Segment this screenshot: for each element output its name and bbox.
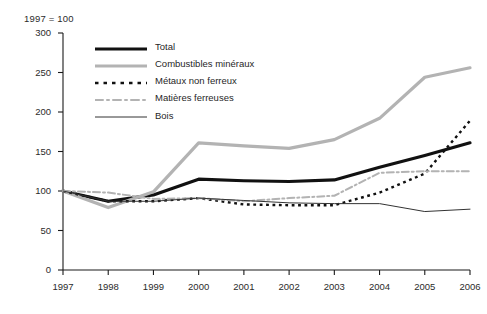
x-axis-tick-label: 2005: [403, 282, 447, 292]
x-axis-tick-label: 2002: [267, 282, 311, 292]
series-line-3: [63, 171, 470, 201]
legend-item[interactable]: Métaux non ferreux: [95, 74, 254, 87]
legend-swatch-icon: [95, 58, 147, 70]
legend-item[interactable]: Matières ferreuses: [95, 92, 254, 105]
legend-label: Combustibles minéraux: [155, 59, 254, 69]
legend-item[interactable]: Combustibles minéraux: [95, 57, 254, 70]
legend-label: Total: [155, 42, 175, 52]
y-axis-tick-label: 0: [17, 265, 51, 275]
x-axis-tick-label: 1999: [131, 282, 175, 292]
legend-swatch-icon: [95, 41, 147, 53]
x-axis-tick-label: 2006: [448, 282, 487, 292]
x-axis-tick-label: 1998: [86, 282, 130, 292]
x-axis-tick-label: 2003: [312, 282, 356, 292]
legend-item[interactable]: Bois: [95, 109, 254, 122]
y-axis-tick-label: 200: [17, 107, 51, 117]
chart-legend: TotalCombustibles minérauxMétaux non fer…: [95, 40, 254, 122]
legend-item[interactable]: Total: [95, 40, 254, 53]
legend-swatch-icon: [95, 109, 147, 121]
chart-container: 1997 = 100 TotalCombustibles minérauxMét…: [0, 0, 487, 314]
legend-label: Bois: [155, 111, 173, 121]
y-axis-tick-label: 150: [17, 147, 51, 157]
legend-label: Matières ferreuses: [155, 93, 234, 103]
legend-label: Métaux non ferreux: [155, 76, 237, 86]
x-axis-tick-label: 2000: [177, 282, 221, 292]
y-axis-tick-label: 300: [17, 28, 51, 38]
x-axis-tick-label: 2001: [222, 282, 266, 292]
y-axis-tick-label: 100: [17, 186, 51, 196]
legend-swatch-icon: [95, 92, 147, 104]
legend-swatch-icon: [95, 75, 147, 87]
x-axis-tick-label: 2004: [358, 282, 402, 292]
y-axis-tick-label: 50: [17, 226, 51, 236]
y-axis-tick-label: 250: [17, 68, 51, 78]
x-axis-tick-label: 1997: [41, 282, 85, 292]
series-line-2: [63, 121, 470, 206]
